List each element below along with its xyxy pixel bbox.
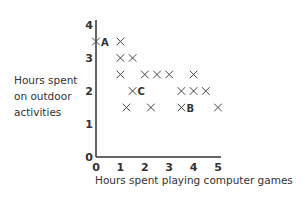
- data-point-marker: [129, 87, 137, 95]
- data-point-marker: [117, 54, 125, 62]
- x-tick-label: 3: [165, 161, 173, 174]
- y-tick-label: 4: [85, 19, 93, 32]
- data-point-marker: [190, 71, 198, 79]
- y-axis-label-line-1: Hours spent: [14, 72, 77, 88]
- data-point-marker: [165, 71, 173, 79]
- y-tick-label: 2: [85, 85, 93, 98]
- point-label-c: C: [138, 86, 145, 97]
- x-tick-label: 1: [117, 161, 125, 174]
- data-point-marker: [178, 104, 186, 112]
- data-point-marker: [129, 54, 137, 62]
- data-point-marker: [123, 104, 131, 112]
- point-label-b: B: [186, 103, 194, 114]
- x-tick-label: 0: [92, 161, 100, 174]
- scatter-chart: 01234501234ACB Hours spent on outdoor ac…: [0, 0, 303, 203]
- data-point-marker: [214, 104, 222, 112]
- data-point-marker: [147, 104, 155, 112]
- y-axis-label: Hours spent on outdoor activities: [14, 72, 77, 120]
- x-tick-label: 5: [214, 161, 222, 174]
- x-axis-label: Hours spent playing computer games: [95, 174, 293, 186]
- data-point-marker: [202, 87, 210, 95]
- y-axis-label-line-3: activities: [14, 104, 77, 120]
- point-label-a: A: [101, 37, 109, 48]
- data-point-marker: [178, 87, 186, 95]
- data-point-marker: [117, 71, 125, 79]
- y-tick-label: 1: [85, 118, 93, 131]
- x-tick-label: 2: [141, 161, 149, 174]
- data-point-marker: [141, 71, 149, 79]
- data-point-marker: [117, 38, 125, 46]
- data-point-marker: [153, 71, 161, 79]
- data-point-marker: [190, 87, 198, 95]
- y-tick-label: 3: [85, 52, 93, 65]
- y-axis-label-line-2: on outdoor: [14, 88, 77, 104]
- y-tick-label: 0: [85, 151, 93, 164]
- x-tick-label: 4: [190, 161, 198, 174]
